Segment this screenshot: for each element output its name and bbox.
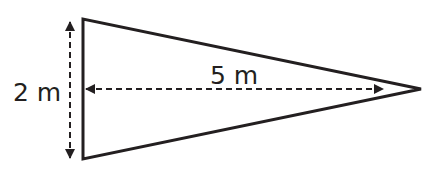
height-label: 2 m xyxy=(13,78,61,107)
triangle-diagram: 2 m 5 m xyxy=(0,0,437,181)
length-label: 5 m xyxy=(210,61,258,90)
